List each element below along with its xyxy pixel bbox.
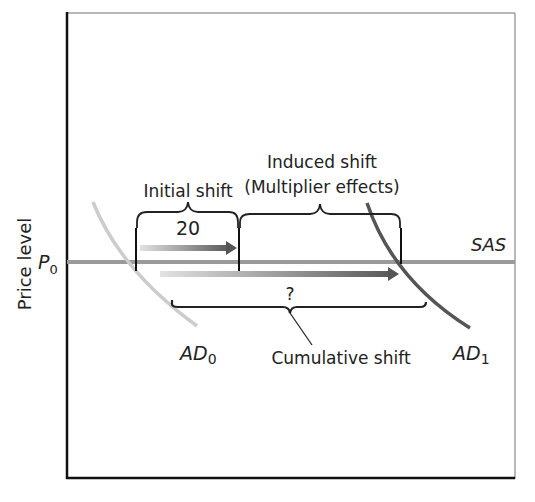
induced-shift-label-line2: (Multiplier effects) [244,177,399,197]
aggregate-demand-diagram: Price level P0 SAS AD0 AD1 Initial shift… [0,0,535,502]
cumulative-shift-brace [172,300,426,313]
price-level-label: P0 [38,251,58,277]
cumulative-shift-label: Cumulative shift [271,348,410,368]
y-axis-label: Price level [14,218,35,310]
induced-shift-label-line1: Induced shift [267,152,377,172]
initial-shift-label: Initial shift [143,181,232,201]
initial-shift-arrow [140,241,237,255]
sas-label: SAS [471,234,506,255]
ad1-label: AD1 [451,342,490,367]
cumulative-shift-leader [290,313,312,345]
cumulative-shift-arrow [160,267,399,281]
ad0-label: AD0 [178,342,217,367]
initial-shift-value: 20 [176,217,200,239]
cumulative-shift-value: ? [285,284,294,304]
ad1-curve [367,203,470,328]
